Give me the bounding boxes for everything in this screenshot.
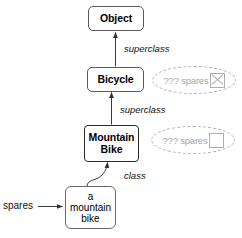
class-node-bicycle[interactable]: Bicycle [87, 67, 144, 92]
ghost-spares-bicycle-label: ??? spares [163, 75, 208, 86]
class-node-mountain-bike-label-line1: Mountain [89, 132, 135, 144]
ghost-spares-bicycle-inner: ??? spares [163, 73, 224, 88]
instance-node-label-line1: a [88, 191, 94, 202]
edge-label-class: class [124, 170, 146, 181]
class-node-object[interactable]: Object [88, 6, 144, 31]
edge-label-superclass-upper: superclass [124, 43, 169, 54]
class-node-mountain-bike[interactable]: Mountain Bike [84, 125, 139, 162]
ghost-spares-mountain-bike: ??? spares [151, 126, 235, 154]
label-spares: spares [3, 200, 33, 211]
ghost-spares-mountain-bike-label: ??? spares [162, 135, 207, 146]
class-node-mountain-bike-label-line2: Bike [101, 144, 123, 156]
instance-node-label-line3: bike [81, 213, 99, 224]
class-node-object-label: Object [100, 13, 132, 25]
empty-box-icon [209, 133, 224, 148]
edge-instance-to-mountainbike [87, 163, 108, 187]
instance-node-label-line2: mountain [70, 202, 111, 213]
diagram-canvas: Object superclass Bicycle ??? spares sup… [0, 0, 242, 238]
instance-node-a-mountain-bike[interactable]: a mountain bike [65, 186, 116, 229]
edges-layer [0, 0, 242, 238]
crossed-box-icon [210, 73, 225, 88]
ghost-spares-bicycle: ??? spares [152, 66, 236, 94]
edge-label-superclass-lower: superclass [120, 104, 165, 115]
ghost-spares-mountain-bike-inner: ??? spares [162, 133, 223, 148]
class-node-bicycle-label: Bicycle [97, 74, 133, 86]
